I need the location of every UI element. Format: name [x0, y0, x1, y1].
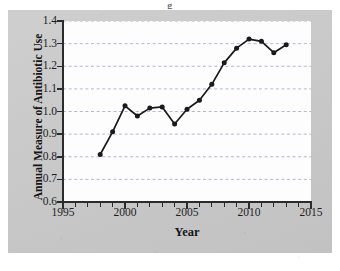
data-point — [98, 152, 103, 157]
data-point — [222, 60, 227, 65]
data-point — [284, 42, 289, 47]
plot-area — [63, 21, 311, 202]
data-point — [147, 106, 152, 111]
data-point — [247, 37, 252, 42]
data-point — [197, 98, 202, 103]
data-point — [234, 46, 239, 51]
data-point — [271, 50, 276, 55]
data-point — [135, 114, 140, 119]
data-point — [185, 107, 190, 112]
y-axis-title: Annual Measure of Antibiotic Use — [32, 17, 44, 217]
chart-canvas — [63, 21, 311, 202]
data-point — [172, 121, 177, 126]
data-point — [160, 104, 165, 109]
data-point — [110, 129, 115, 134]
x-axis-title: Year — [62, 225, 312, 240]
data-line — [100, 39, 286, 154]
y-axis-line — [62, 20, 64, 203]
data-point — [209, 82, 214, 87]
chart-title-text: g — [167, 1, 172, 9]
chart-title-cropped: g — [0, 0, 340, 9]
data-markers — [98, 37, 289, 157]
data-point — [259, 39, 264, 44]
x-axis-line — [62, 201, 312, 203]
data-point — [123, 103, 128, 108]
